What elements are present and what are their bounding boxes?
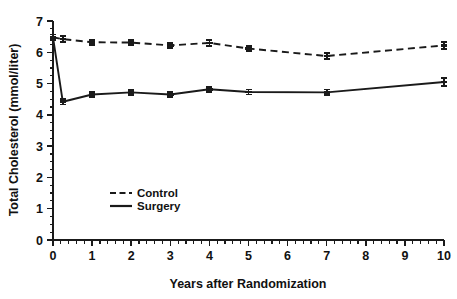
error-bar: [324, 53, 330, 59]
error-bar: [50, 34, 56, 40]
y-axis-tick-labels: 01234567: [36, 15, 43, 248]
y-tick-label: 1: [36, 202, 43, 216]
error-bar: [89, 40, 95, 45]
chart-legend: ControlSurgery: [110, 187, 181, 212]
x-tick-label: 2: [128, 249, 135, 263]
error-bar: [441, 78, 447, 86]
y-tick-label: 2: [36, 171, 43, 185]
x-tick-label: 5: [245, 249, 252, 263]
x-tick-label: 6: [284, 249, 291, 263]
data-series: [50, 34, 447, 104]
y-tick-label: 4: [36, 108, 43, 122]
error-bar: [128, 40, 134, 45]
y-tick-label: 5: [36, 77, 43, 91]
x-axis-title: Years after Randomization: [170, 277, 327, 291]
legend-item-surgery: Surgery: [110, 200, 181, 212]
error-bar: [167, 92, 173, 97]
x-axis-ticks: [53, 240, 444, 246]
series-control: [50, 34, 447, 59]
error-bar: [245, 90, 251, 95]
legend-label: Control: [137, 187, 178, 199]
legend-item-control: Control: [110, 187, 178, 199]
y-axis-title: Total Cholesterol (mmol/liter): [7, 44, 21, 217]
error-bar: [167, 43, 173, 49]
x-tick-label: 8: [362, 249, 369, 263]
y-tick-label: 7: [36, 15, 43, 29]
error-bar: [89, 92, 95, 97]
legend-label: Surgery: [137, 200, 181, 212]
chart-figure: 01234567 012345678910 ControlSurgery Yea…: [0, 0, 457, 299]
x-tick-label: 1: [89, 249, 96, 263]
error-bar: [60, 99, 66, 105]
y-tick-label: 0: [36, 234, 43, 248]
x-tick-label: 7: [323, 249, 330, 263]
error-bar: [441, 42, 447, 50]
error-bar: [206, 40, 212, 46]
y-tick-label: 3: [36, 140, 43, 154]
x-tick-label: 4: [206, 249, 213, 263]
cholesterol-line-chart: 01234567 012345678910 ControlSurgery Yea…: [0, 0, 457, 299]
error-bar: [128, 90, 134, 95]
x-tick-label: 9: [401, 249, 408, 263]
error-bar: [60, 36, 66, 42]
error-bar: [324, 90, 330, 96]
x-axis-tick-labels: 012345678910: [50, 249, 451, 263]
y-axis-ticks: [47, 21, 53, 240]
x-tick-label: 10: [437, 249, 451, 263]
error-bar: [206, 87, 212, 92]
x-tick-label: 0: [50, 249, 57, 263]
x-tick-label: 3: [167, 249, 174, 263]
axes: [53, 21, 444, 240]
y-tick-label: 6: [36, 46, 43, 60]
error-bar: [245, 46, 251, 52]
